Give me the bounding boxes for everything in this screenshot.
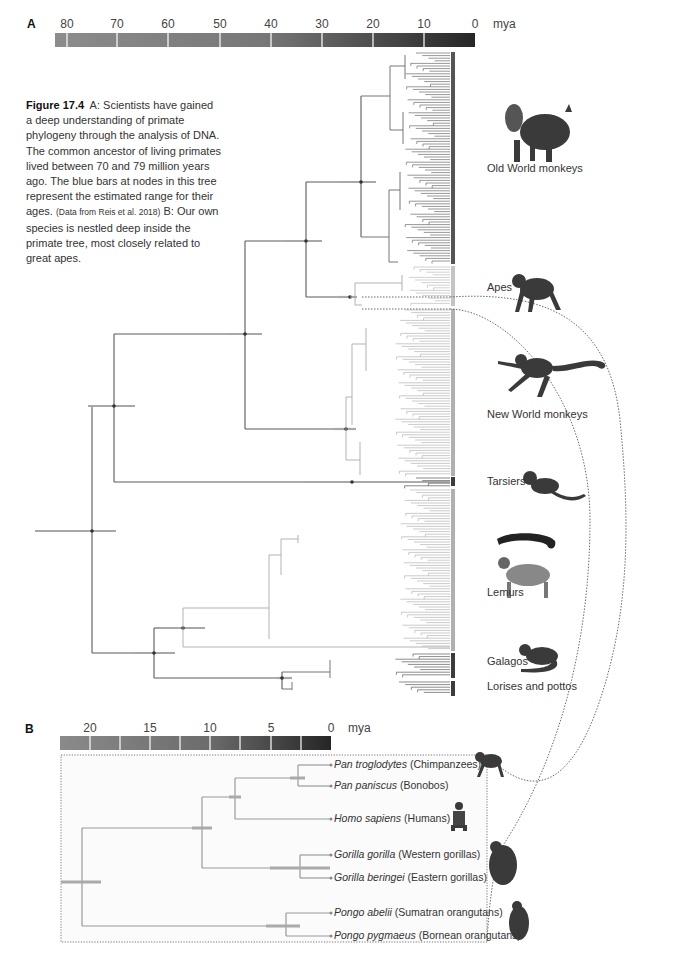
tick-label: 5 (268, 721, 275, 735)
clade-label-lorises-and-pottos: Lorises and pottos (487, 680, 577, 692)
scientific-name: Gorilla beringei (334, 871, 405, 883)
species-pongo-pygmaeus: Pongo pygmaeus (Bornean orangutans) (334, 929, 521, 941)
species-homo-sapiens: Homo sapiens (Humans) (334, 812, 450, 824)
tick-label: 0 (328, 721, 335, 735)
spider-monkey-icon (498, 354, 605, 397)
species-pan-troglodytes: Pan troglodytes (Chimpanzees) (334, 758, 481, 770)
clade-lemurs (183, 535, 450, 647)
tree-a-backbone (62, 96, 450, 689)
clade-label-new-world-monkeys: New World monkeys (487, 408, 588, 420)
species-pan-paniscus: Pan paniscus (Bonobos) (334, 779, 448, 791)
species-gorilla-gorilla: Gorilla gorilla (Western gorillas) (334, 848, 480, 860)
clade-label-old-world-monkeys: Old World monkeys (487, 162, 583, 174)
tick-label: 20 (83, 721, 96, 735)
mandrill-icon (505, 104, 572, 162)
tarsier-icon (523, 471, 586, 500)
clade-old-world-monkeys (361, 55, 405, 262)
clade-new-world-monkeys (346, 328, 366, 475)
node-dots-a (90, 180, 363, 680)
scientific-name: Pongo abelii (334, 906, 392, 918)
common-name: (Eastern gorillas) (408, 871, 487, 883)
common-name: (Sumatran orangutans) (395, 906, 503, 918)
panel-b-letter: B (25, 722, 34, 736)
tick-label: 15 (143, 721, 156, 735)
scientific-name: Gorilla gorilla (334, 848, 395, 860)
common-name: (Chimpanzees) (410, 758, 481, 770)
chimpanzee-icon (512, 274, 561, 312)
species-pongo-abelii: Pongo abelii (Sumatran orangutans) (334, 906, 503, 918)
clade-apes (350, 275, 402, 305)
clade-galagos-lorises (282, 660, 330, 690)
clade-bars (451, 52, 455, 696)
common-name: (Bonobos) (400, 779, 448, 791)
clade-label-lemurs: Lemurs (487, 586, 524, 598)
common-name: (Western gorillas) (398, 848, 480, 860)
scale-unit: mya (348, 721, 371, 735)
clade-label-apes: Apes (487, 281, 512, 293)
scientific-name: Pongo pygmaeus (334, 929, 416, 941)
scale-bar-a (55, 33, 475, 47)
tick-label: 10 (203, 721, 216, 735)
species-gorilla-beringei: Gorilla beringei (Eastern gorillas) (334, 871, 487, 883)
scientific-name: Pan troglodytes (334, 758, 407, 770)
clade-label-galagos: Galagos (487, 655, 528, 667)
common-name: (Humans) (404, 812, 450, 824)
clade-label-tarsiers: Tarsiers (487, 475, 526, 487)
scale-bar-b (60, 736, 331, 750)
scientific-name: Homo sapiens (334, 812, 401, 824)
scientific-name: Pan paniscus (334, 779, 397, 791)
common-name: (Bornean orangutans) (419, 929, 521, 941)
gorilla-icon (489, 841, 517, 885)
